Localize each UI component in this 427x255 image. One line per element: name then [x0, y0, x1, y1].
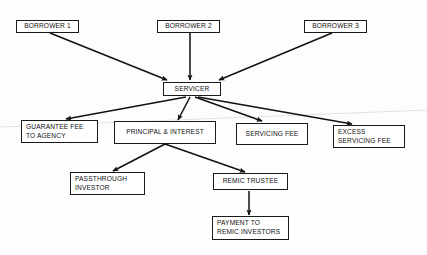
- node-excess_servicing_fee[interactable]: EXCESS SERVICING FEE: [333, 125, 405, 148]
- arrow-servicer-to-principal-interest: [178, 97, 190, 120]
- flow-diagram: BORROWER 1BORROWER 2BORROWER 3SERVICERGU…: [0, 0, 427, 255]
- node-label-borrower3: BORROWER 3: [308, 22, 363, 31]
- node-borrower2[interactable]: BORROWER 2: [157, 20, 220, 33]
- node-borrower3[interactable]: BORROWER 3: [304, 20, 367, 33]
- arrow-borrower1-to-servicer: [50, 33, 167, 80]
- node-label-remic_trustee: REMIC TRUSTEE: [217, 177, 284, 186]
- node-payment_remic_investors[interactable]: PAYMENT TO REMIC INVESTORS: [212, 216, 289, 240]
- node-label-guarantee_fee: GUARANTEE FEE TO AGENCY: [26, 123, 94, 140]
- arrow-principal-interest-to-remic-trustee: [165, 144, 245, 172]
- node-passthrough_investor[interactable]: PASSTHROUGH INVESTOR: [70, 172, 145, 195]
- arrow-principal-interest-to-passthrough: [113, 144, 165, 171]
- arrow-borrower3-to-servicer: [219, 33, 332, 80]
- arrow-servicer-to-servicing-fee: [195, 97, 262, 121]
- arrow-servicer-to-excess-servicing-fee: [198, 97, 352, 124]
- node-label-borrower1: BORROWER 1: [20, 22, 75, 31]
- node-guarantee_fee[interactable]: GUARANTEE FEE TO AGENCY: [21, 120, 98, 143]
- node-label-principal_interest: PRINCIPAL & INTEREST: [118, 128, 212, 137]
- node-borrower1[interactable]: BORROWER 1: [16, 20, 79, 33]
- node-label-servicer: SERVICER: [167, 85, 217, 94]
- node-remic_trustee[interactable]: REMIC TRUSTEE: [213, 173, 288, 190]
- arrow-servicer-to-guarantee-fee: [66, 97, 186, 119]
- node-label-passthrough_investor: PASSTHROUGH INVESTOR: [75, 175, 141, 192]
- node-label-excess_servicing_fee: EXCESS SERVICING FEE: [338, 128, 401, 145]
- node-servicing_fee[interactable]: SERVICING FEE: [236, 123, 308, 145]
- node-label-payment_remic_investors: PAYMENT TO REMIC INVESTORS: [217, 219, 285, 236]
- node-label-servicing_fee: SERVICING FEE: [240, 130, 304, 139]
- node-label-borrower2: BORROWER 2: [161, 22, 216, 31]
- node-principal_interest[interactable]: PRINCIPAL & INTEREST: [114, 121, 216, 144]
- node-servicer[interactable]: SERVICER: [163, 82, 221, 96]
